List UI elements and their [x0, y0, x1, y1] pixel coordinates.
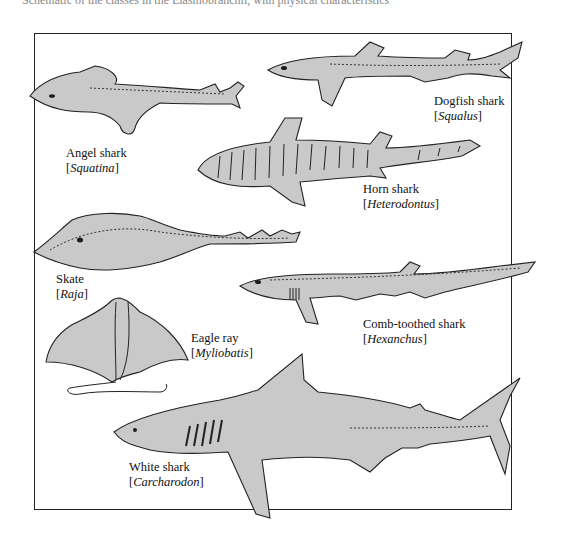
skate-illustration [34, 213, 300, 270]
label-skate: Skate [Raja] [56, 272, 88, 302]
genus-name: Squatina [70, 161, 114, 175]
eagle-ray-illustration [46, 298, 188, 394]
common-name: Comb-toothed shark [363, 317, 465, 331]
label-comb-toothed-shark: Comb-toothed shark [Hexanchus] [363, 317, 465, 347]
label-horn-shark: Horn shark [Heterodontus] [363, 182, 439, 212]
label-dogfish-shark: Dogfish shark [Squalus] [434, 94, 504, 124]
genus-name: Raja [60, 287, 84, 301]
common-name: Skate [56, 272, 84, 286]
genus-name: Carcharodon [133, 475, 199, 489]
common-name: Dogfish shark [434, 94, 504, 108]
comb-toothed-shark-illustration [240, 262, 535, 324]
label-white-shark: White shark [Carcharodon] [129, 460, 204, 490]
genus-name: Heterodontus [367, 197, 435, 211]
common-name: Angel shark [66, 146, 127, 160]
common-name: White shark [129, 460, 190, 474]
common-name: Horn shark [363, 182, 419, 196]
common-name: Eagle ray [191, 331, 239, 345]
angel-shark-illustration [30, 66, 244, 134]
white-shark-illustration [114, 354, 520, 518]
label-angel-shark: Angel shark [Squatina] [66, 146, 127, 176]
label-eagle-ray: Eagle ray [Myliobatis] [191, 331, 253, 361]
genus-name: Squalus [438, 109, 478, 123]
genus-name: Hexanchus [367, 332, 423, 346]
genus-name: Myliobatis [195, 346, 248, 360]
